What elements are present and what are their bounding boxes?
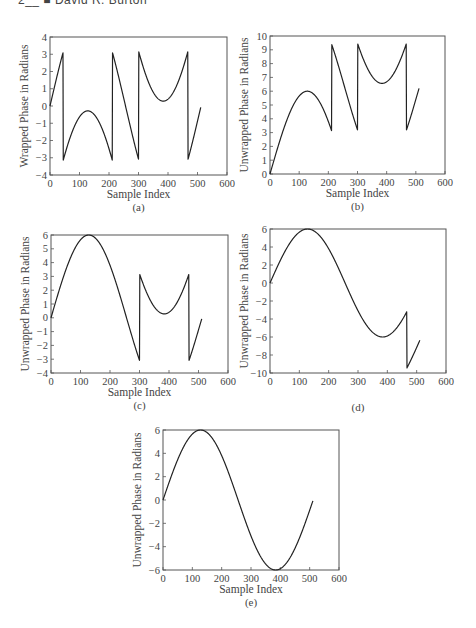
y-tick-label: 7	[262, 72, 267, 83]
phase-curve	[50, 52, 201, 160]
y-tick-label: −4	[149, 541, 161, 552]
y-tick-label: 4	[262, 242, 268, 253]
y-tick-label: 4	[155, 448, 161, 459]
y-tick-label: −4	[37, 368, 49, 379]
y-tick-label: 6	[155, 425, 160, 436]
y-tick-label: 0	[262, 169, 267, 180]
x-tick-label: 600	[219, 178, 235, 189]
phase-curve	[51, 235, 202, 360]
y-tick-label: 2	[43, 285, 48, 296]
y-tick-label: −4	[256, 314, 268, 325]
y-tick-label: 3	[262, 127, 267, 138]
y-tick-label: −10	[251, 368, 267, 379]
x-tick-label: 100	[184, 573, 200, 584]
y-tick-label: 5	[43, 243, 48, 254]
y-tick-label: 0	[262, 278, 267, 289]
y-tick-label: 8	[262, 58, 267, 69]
y-tick-label: 2	[155, 471, 160, 482]
y-tick-label: 2	[42, 66, 47, 77]
x-axis-label: Sample Index	[219, 583, 283, 596]
phase-curve	[270, 229, 420, 368]
y-tick-label: 10	[257, 31, 268, 42]
y-tick-label: 2	[262, 260, 267, 271]
y-tick-label: −3	[36, 152, 47, 163]
y-tick-label: −8	[256, 350, 267, 361]
y-tick-label: 0	[155, 495, 160, 506]
y-tick-label: 0	[43, 312, 48, 323]
x-tick-label: 600	[220, 376, 236, 387]
x-tick-label: 0	[160, 573, 165, 584]
y-axis-label: Wrapped Phase in Radians	[18, 44, 31, 168]
figure-caption: (c)	[133, 399, 146, 412]
figure-caption: (d)	[352, 401, 365, 414]
y-axis-label: Unwrapped Phase in Radians	[238, 37, 251, 173]
y-tick-label: 1	[42, 83, 47, 94]
x-axis-label: Sample Index	[326, 187, 390, 200]
phase-curve	[163, 430, 313, 570]
y-tick-label: −4	[36, 170, 48, 181]
x-tick-label: 0	[48, 376, 53, 387]
y-tick-label: 3	[42, 49, 47, 60]
y-tick-label: 3	[43, 271, 48, 282]
y-tick-label: −1	[36, 118, 47, 129]
y-tick-label: 6	[43, 230, 48, 241]
x-tick-label: 100	[291, 376, 307, 387]
x-tick-label: 0	[267, 376, 272, 387]
y-tick-label: 1	[43, 299, 48, 310]
y-tick-label: 1	[262, 155, 267, 166]
y-tick-label: −2	[149, 518, 160, 529]
x-tick-label: 0	[267, 177, 272, 188]
chart-panel-b: 0100200300400500600012345678910Sample In…	[238, 31, 453, 214]
x-tick-label: 500	[302, 573, 318, 584]
figure-panels: 0100200300400500600−4−3−2−101234Sample I…	[0, 0, 476, 628]
chart-panel-e: 0100200300400500600−6−4−20246Sample Inde…	[131, 425, 347, 610]
x-tick-label: 500	[409, 376, 425, 387]
x-tick-label: 600	[438, 376, 454, 387]
y-tick-label: 0	[42, 101, 47, 112]
x-axis-label: Sample Index	[107, 188, 171, 201]
y-axis-label: Unwrapped Phase in Radians	[19, 236, 32, 372]
figure-caption: (e)	[245, 596, 258, 609]
x-tick-label: 0	[47, 178, 52, 189]
y-axis-label: Unwrapped Phase in Radians	[238, 233, 251, 369]
x-tick-label: 600	[437, 177, 453, 188]
x-tick-label: 500	[190, 178, 206, 189]
x-tick-label: 100	[291, 177, 307, 188]
y-tick-label: 4	[262, 113, 268, 124]
y-axis-label: Unwrapped Phase in Radians	[131, 432, 144, 568]
y-tick-label: 6	[262, 224, 267, 235]
y-tick-label: −1	[37, 326, 48, 337]
x-tick-label: 300	[350, 376, 366, 387]
plot-frame	[163, 430, 339, 570]
y-tick-label: 4	[43, 257, 49, 268]
plot-frame	[270, 229, 446, 373]
y-tick-label: 9	[262, 44, 267, 55]
x-tick-label: 500	[191, 376, 207, 387]
figure-caption: (a)	[132, 201, 145, 214]
y-tick-label: 5	[262, 100, 267, 111]
y-tick-label: 4	[42, 32, 48, 43]
x-tick-label: 500	[408, 177, 424, 188]
x-axis-label: Sample Index	[108, 386, 172, 399]
x-tick-label: 200	[321, 376, 337, 387]
y-tick-label: −3	[37, 354, 48, 365]
y-tick-label: −2	[36, 135, 47, 146]
y-tick-label: −2	[37, 340, 48, 351]
y-tick-label: 2	[262, 141, 267, 152]
x-tick-label: 400	[379, 376, 395, 387]
y-tick-label: −2	[256, 296, 267, 307]
y-tick-label: −6	[149, 565, 160, 576]
chart-panel-a: 0100200300400500600−4−3−2−101234Sample I…	[18, 32, 235, 215]
y-tick-label: 6	[262, 86, 267, 97]
x-tick-label: 100	[73, 376, 89, 387]
figure-caption: (b)	[351, 200, 364, 213]
phase-curve	[270, 44, 419, 174]
chart-panel-d: 0100200300400500600−10−8−6−4−20246Unwrap…	[238, 224, 454, 415]
chart-panel-c: 0100200300400500600−4−3−2−10123456Sample…	[19, 230, 236, 413]
x-tick-label: 600	[331, 573, 347, 584]
y-tick-label: −6	[256, 332, 267, 343]
x-tick-label: 100	[72, 178, 88, 189]
